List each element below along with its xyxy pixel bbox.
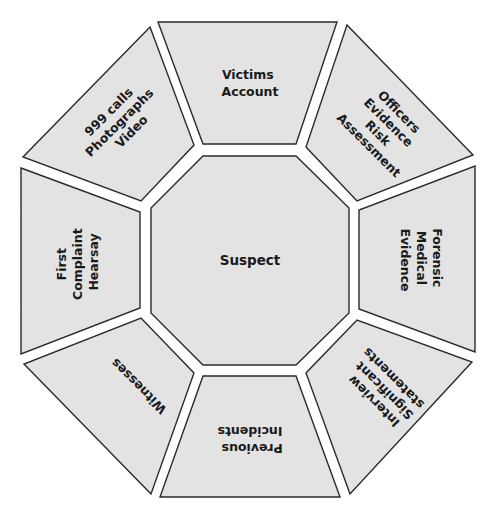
center-segment-suspect: Suspect <box>151 156 349 365</box>
segment-line: Evidence <box>398 228 413 291</box>
segment-999-calls: 999 calls Photographs Video <box>23 27 194 201</box>
segment-interview-statements: Interview Significant statements <box>306 320 472 494</box>
segment-line: Medical <box>414 231 429 285</box>
svg-text:Forensic Medical E: Forensic Medical Evidence <box>398 228 445 292</box>
segment-line: Forensic <box>430 228 445 287</box>
segment-line: Hearsay <box>86 233 101 290</box>
evidence-octagon-diagram: Suspect Victims Account Officers Evidenc… <box>0 0 489 515</box>
segment-line: Account <box>222 84 279 99</box>
segment-line: Complaint <box>70 228 85 300</box>
segment-line: First <box>54 248 69 280</box>
segment-line: Previous <box>222 441 283 456</box>
segment-witnesses: Witnesses <box>24 318 194 494</box>
segment-line: Victims <box>222 67 274 82</box>
center-label: Suspect <box>220 252 281 268</box>
segment-officers-evidence: Officers Evidence Risk Assessment <box>306 25 473 201</box>
segment-line: Incidents <box>218 424 283 439</box>
